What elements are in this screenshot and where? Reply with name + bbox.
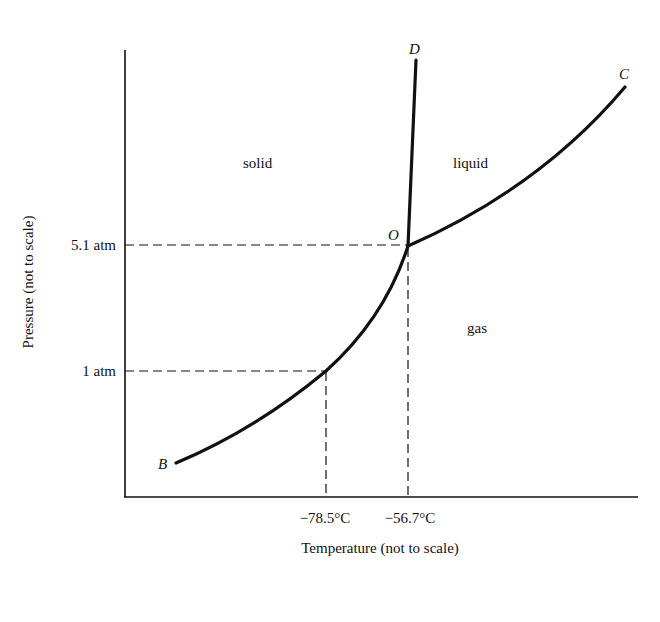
curve-bo — [176, 246, 408, 463]
region-liquid-label: liquid — [453, 155, 489, 171]
point-label-o: O — [388, 227, 399, 243]
y-tick-1-atm: 1 atm — [82, 363, 116, 379]
curve-oc — [408, 87, 625, 246]
y-axis-title: Pressure (not to scale) — [20, 216, 37, 349]
y-tick-5-1-atm: 5.1 atm — [71, 237, 116, 253]
point-label-b: B — [158, 456, 167, 472]
region-gas-label: gas — [467, 320, 487, 336]
x-axis-title: Temperature (not to scale) — [301, 540, 459, 557]
point-label-d: D — [408, 41, 420, 57]
point-label-c: C — [619, 66, 630, 82]
curve-od — [408, 60, 416, 246]
x-tick-minus-78-5: −78.5°C — [300, 510, 351, 526]
phase-diagram: B O C D solid liquid gas 5.1 atm 1 atm −… — [0, 0, 660, 622]
region-solid-label: solid — [243, 155, 273, 171]
x-tick-minus-56-7: −56.7°C — [385, 510, 436, 526]
